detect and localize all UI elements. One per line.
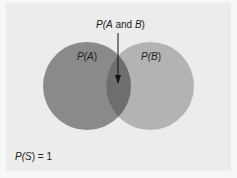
- set-a-label: P(A): [77, 51, 97, 62]
- set-b-label: P(B): [141, 51, 161, 62]
- intersection-label: P(A and B): [96, 19, 145, 30]
- sample-space-label: P(S) = 1: [15, 151, 52, 162]
